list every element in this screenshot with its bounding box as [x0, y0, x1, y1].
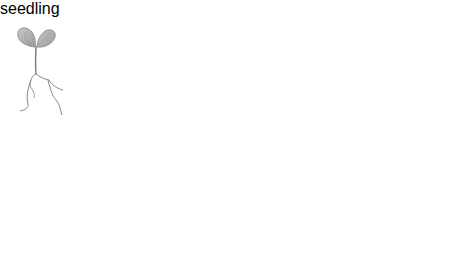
seedling-icon	[18, 28, 63, 115]
plant-microbe-diagram	[0, 0, 470, 257]
